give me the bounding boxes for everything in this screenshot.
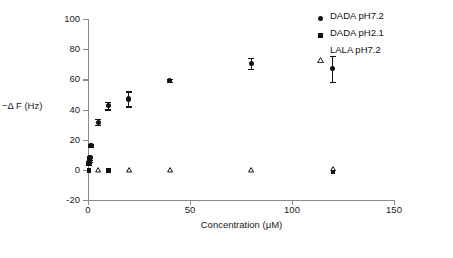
error-bar-cap-bottom — [248, 69, 254, 70]
marker-square-icon — [87, 168, 92, 173]
marker-circle-icon — [330, 66, 335, 71]
y-tick-label: 0 — [52, 165, 80, 175]
legend-label: LALA pH7.2 — [330, 44, 381, 56]
y-tick-label: 60 — [52, 74, 80, 84]
legend-label: DADA pH7.2 — [330, 10, 384, 22]
error-bar-cap-bottom — [105, 109, 111, 110]
y-tick-label-text: 80 — [54, 44, 80, 54]
x-axis-title: Concentration (μM) — [88, 219, 395, 230]
legend-item: LALA pH7.2 — [316, 43, 450, 58]
error-bar-cap-bottom — [87, 160, 93, 161]
x-tick-label: 0 — [68, 204, 108, 215]
x-axis-line — [88, 200, 395, 201]
marker-triangle-icon — [95, 167, 101, 173]
y-tick-label-text: 100 — [54, 14, 80, 24]
marker-triangle-icon — [330, 166, 336, 172]
marker-circle-icon — [126, 96, 131, 101]
chart-figure: 100806040200-20 050100150 −Δ F (Hz) Conc… — [0, 0, 453, 258]
marker-triangle-icon — [167, 167, 173, 173]
chart-legend: DADA pH7.2DADA pH2.1LALA pH7.2 — [316, 9, 450, 60]
marker-circle-icon — [96, 120, 101, 125]
marker-circle-icon — [88, 143, 93, 148]
legend-item: DADA pH7.2 — [316, 9, 450, 24]
marker-circle-icon — [249, 61, 254, 66]
legend-label: DADA pH2.1 — [330, 27, 384, 39]
legend-marker-square-icon — [316, 30, 326, 40]
legend-marker-triangle-icon — [316, 47, 326, 57]
y-tick-label: 20 — [52, 135, 80, 145]
y-tick-label-text: 0 — [54, 165, 80, 175]
error-bar-cap-top — [126, 91, 132, 92]
x-tick-label: 50 — [170, 204, 210, 215]
y-tick-label-text: 20 — [54, 135, 80, 145]
y-tick-label-text: 60 — [54, 74, 80, 84]
x-tick-label: 100 — [272, 204, 312, 215]
error-bar-cap-bottom — [95, 125, 101, 126]
legend-item: DADA pH2.1 — [316, 26, 450, 41]
error-bar-cap-bottom — [330, 82, 336, 83]
marker-circle-icon — [87, 155, 92, 160]
marker-circle-icon — [106, 103, 111, 108]
marker-triangle-icon — [248, 167, 254, 173]
y-tick-label: 100 — [52, 14, 80, 24]
marker-triangle-icon — [126, 167, 132, 173]
y-axis-title: −Δ F (Hz) — [2, 100, 78, 111]
error-bar-cap-top — [248, 58, 254, 59]
legend-marker-circle-icon — [316, 13, 326, 23]
y-tick-label: 80 — [52, 44, 80, 54]
error-bar-cap-bottom — [126, 106, 132, 107]
x-tick-label: 150 — [374, 204, 414, 215]
marker-square-icon — [106, 168, 111, 173]
